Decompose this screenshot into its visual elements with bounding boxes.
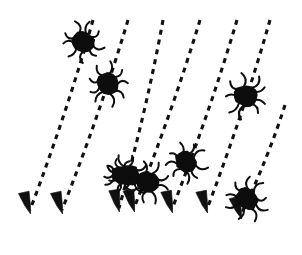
figure-canvas xyxy=(0,0,302,255)
trajectory-diagram xyxy=(0,0,302,255)
